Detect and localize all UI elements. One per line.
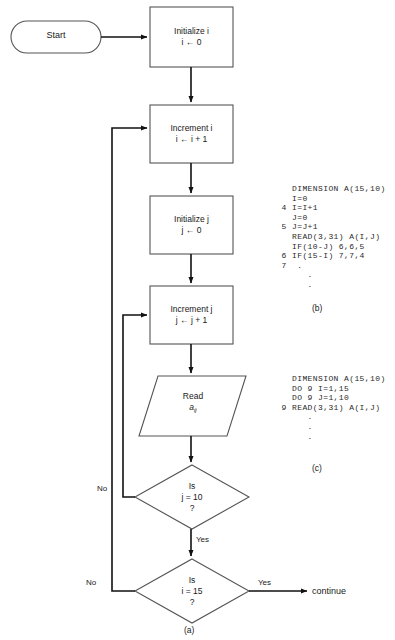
decision-j-shape: [135, 465, 249, 529]
exit-continue-label: continue: [312, 586, 346, 596]
process-initialize-j-shape: [150, 196, 233, 254]
edge-label-i-no: No: [86, 578, 96, 587]
code-listing-b: DIMENSION A(15,10) I=0 4 I=I+1 J=0 5 J=J…: [266, 184, 386, 290]
loop-outer-i-no: [112, 128, 147, 591]
edge-label-i-yes: Yes: [258, 578, 271, 587]
loop-inner-j-no: [123, 315, 147, 497]
process-increment-i-shape: [150, 105, 233, 163]
figure-caption-c: (c): [312, 463, 322, 473]
edge-label-j-no: No: [97, 484, 107, 493]
decision-i-shape: [135, 559, 249, 623]
flowchart-figure: Start Initialize i i ← 0 Increment i i ←…: [0, 0, 395, 640]
start-terminator-label: Start: [11, 30, 101, 40]
figure-caption-a: (a): [184, 625, 194, 635]
edge-label-j-yes: Yes: [196, 535, 209, 544]
flowchart-canvas: [0, 0, 395, 640]
process-initialize-i-shape: [150, 7, 233, 67]
code-listing-c: DIMENSION A(15,10) DO 9 I=1,15 DO 9 J=1,…: [266, 374, 386, 441]
io-read-shape: [139, 376, 246, 436]
figure-caption-b: (b): [312, 303, 322, 313]
process-increment-j-shape: [150, 286, 233, 344]
